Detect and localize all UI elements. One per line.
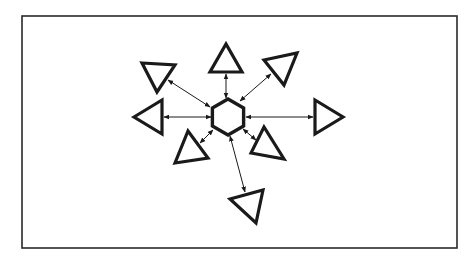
arrow-to-top-right — [240, 74, 271, 101]
triangle-node-bottom-right — [251, 127, 284, 159]
arrow-to-top-left — [168, 80, 210, 107]
arrow-to-bottom-left — [200, 130, 213, 143]
triangle-node-bottom-left — [175, 131, 208, 163]
triangle-node-top — [210, 44, 242, 72]
arrow-to-bottom — [230, 136, 245, 192]
hub-spoke-diagram — [0, 0, 475, 259]
triangle-node-bottom — [230, 190, 263, 223]
triangle-node-left — [134, 100, 162, 134]
triangle-node-top-left — [142, 63, 175, 92]
central-hexagon-hub — [212, 99, 243, 135]
diagram-frame — [22, 16, 457, 248]
triangle-node-top-right — [264, 53, 297, 85]
arrow-to-bottom-right — [243, 129, 256, 140]
triangle-nodes — [134, 44, 343, 223]
triangle-node-right — [315, 100, 343, 134]
